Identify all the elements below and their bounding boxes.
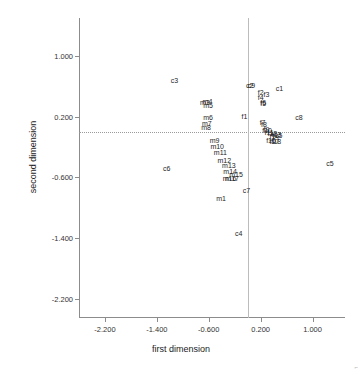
x-tick-mark <box>313 318 314 322</box>
data-point-label-c9: c9 <box>248 81 255 88</box>
x-axis-line <box>79 317 345 318</box>
x-tick-label: -0.600 <box>198 325 219 334</box>
horizontal-reference-line <box>79 132 345 133</box>
data-point-label-f1: f1 <box>242 112 248 119</box>
y-axis-title: second dimension <box>28 7 38 307</box>
x-tick-mark <box>261 318 262 322</box>
x-tick-label: -1.400 <box>146 325 167 334</box>
data-point-label-m11: m11 <box>214 149 227 156</box>
vertical-reference-line <box>248 18 249 318</box>
x-tick-label: 0.200 <box>251 325 270 334</box>
y-axis-line <box>79 18 80 318</box>
y-tick-label: 0.200 <box>54 112 73 121</box>
data-point-label-m5: m5 <box>203 102 213 109</box>
y-tick-label: -2.200 <box>52 295 73 304</box>
data-point-label-c6: c6 <box>163 164 170 171</box>
data-point-label-f6: f6 <box>260 99 266 106</box>
corner-mark: ⌐ <box>354 364 358 370</box>
data-point-label-m1: m1 <box>216 195 226 202</box>
data-point-label-f18: f18 <box>271 138 281 145</box>
data-point-label-c4: c4 <box>235 229 242 236</box>
data-point-label-c7: c7 <box>243 187 250 194</box>
y-tick-mark <box>75 177 79 178</box>
x-tick-mark <box>157 318 158 322</box>
scatter-plot-figure: 1.0000.200-0.600-1.400-2.200 -2.200-1.40… <box>0 0 362 375</box>
y-tick-mark <box>75 238 79 239</box>
x-tick-label: 1.000 <box>303 325 322 334</box>
y-tick-label: -0.600 <box>52 173 73 182</box>
data-point-label-m17: m17 <box>225 175 239 182</box>
data-point-label-c8: c8 <box>295 114 302 121</box>
data-point-label-c1: c1 <box>276 84 283 91</box>
y-tick-label: 1.000 <box>54 51 73 60</box>
x-tick-mark <box>209 318 210 322</box>
data-point-label-c3: c3 <box>171 77 178 84</box>
data-point-label-f3: f3 <box>264 90 270 97</box>
data-point-label-m8: m8 <box>201 124 211 131</box>
plot-area: 1.0000.200-0.600-1.400-2.200 -2.200-1.40… <box>79 18 345 318</box>
y-tick-label: -1.400 <box>52 234 73 243</box>
y-tick-mark <box>75 56 79 57</box>
y-tick-mark <box>75 299 79 300</box>
data-point-label-c5: c5 <box>326 160 333 167</box>
x-axis-title: first dimension <box>0 344 362 354</box>
x-tick-mark <box>105 318 106 322</box>
y-tick-mark <box>75 117 79 118</box>
x-tick-label: -2.200 <box>94 325 115 334</box>
